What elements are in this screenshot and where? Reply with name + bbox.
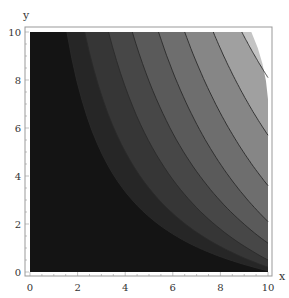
y-tick-labels: 0246810 (8, 27, 21, 278)
y-axis-label: y (22, 9, 30, 22)
x-tick-label: 2 (74, 282, 80, 293)
y-tick-label: 4 (15, 171, 21, 182)
y-tick-label: 6 (15, 123, 21, 134)
x-tick-label: 10 (262, 282, 275, 293)
x-tick-label: 6 (170, 282, 176, 293)
contour-plot: 0246810 0246810 x y (0, 0, 289, 298)
x-axis-label: x (279, 270, 286, 283)
y-tick-label: 8 (15, 75, 21, 86)
x-tick-labels: 0246810 (27, 282, 275, 293)
x-tick-label: 8 (217, 282, 223, 293)
y-tick-label: 2 (15, 219, 21, 230)
y-tick-label: 10 (8, 27, 21, 38)
contour-bands (30, 32, 268, 272)
y-tick-label: 0 (15, 267, 21, 278)
x-tick-label: 4 (122, 282, 128, 293)
x-tick-label: 0 (27, 282, 33, 293)
